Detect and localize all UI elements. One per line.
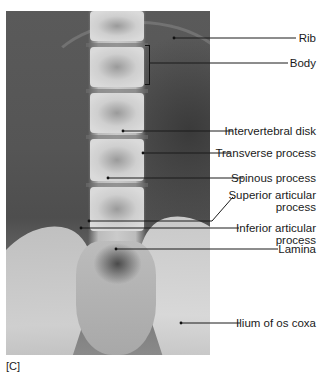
label-intervertebral-disk: Intervertebral disk [225, 125, 316, 137]
label-rib: Rib [299, 32, 316, 44]
label-transverse-process: Transverse process [215, 147, 316, 159]
panel-label: [C] [6, 360, 20, 372]
label-superior-articular-process: Superior articular process [228, 189, 316, 213]
label-ilium-of-os-coxa: Ilium of os coxa [236, 317, 316, 329]
label-lamina: Lamina [278, 243, 316, 255]
label-body: Body [290, 57, 316, 69]
label-spinous-process: Spinous process [231, 172, 316, 184]
